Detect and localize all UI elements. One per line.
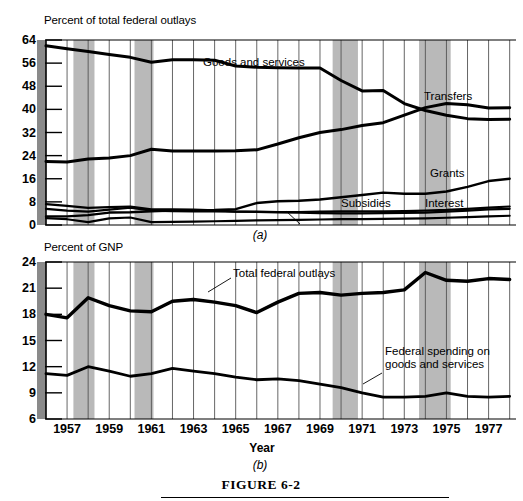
- figure-caption: FIGURE 6-2: [161, 477, 361, 493]
- recession-band-0-0: [73, 40, 94, 225]
- label-transfers: Transfers: [424, 90, 472, 103]
- ytick-label-1-12: 12: [10, 361, 36, 373]
- label-goods-and-services: Goods and services: [203, 56, 305, 69]
- ytick-label-0-48: 48: [10, 80, 36, 92]
- recession-band-0-1: [135, 40, 154, 225]
- recession-band-1-0: [73, 262, 94, 419]
- ytick-label-1-15: 15: [10, 335, 36, 347]
- ytick-label-1-24: 24: [10, 256, 36, 268]
- caption-divider: [161, 497, 449, 498]
- label-grants: Grants: [430, 167, 465, 180]
- label-interest: Interest: [425, 197, 463, 210]
- label-federal-spending-goods: Federal spending on goods and services: [385, 345, 510, 371]
- xtick-label-1969: 1969: [298, 423, 342, 436]
- xtick-label-1967: 1967: [256, 423, 300, 436]
- ytick-label-0-32: 32: [10, 127, 36, 139]
- xtick-label-1957: 1957: [45, 423, 89, 436]
- recession-band-1-2: [333, 262, 358, 419]
- xtick-label-1965: 1965: [214, 423, 258, 436]
- recession-band-1-1: [135, 262, 154, 419]
- ytick-label-1-6: 6: [10, 413, 36, 425]
- xtick-label-1975: 1975: [424, 423, 468, 436]
- xtick-label-1973: 1973: [382, 423, 426, 436]
- ytick-label-0-56: 56: [10, 57, 36, 69]
- ytick-label-1-21: 21: [10, 282, 36, 294]
- label-total-federal-outlays: Total federal outlays: [233, 267, 335, 280]
- panel-b-letter: (b): [240, 458, 280, 472]
- leader-federal-goods: [363, 373, 382, 384]
- label-subsidies: Subsidies: [341, 197, 391, 210]
- ytick-label-0-8: 8: [10, 196, 36, 208]
- x-axis-label: Year: [240, 441, 284, 455]
- ytick-label-0-64: 64: [10, 34, 36, 46]
- ytick-label-1-18: 18: [10, 308, 36, 320]
- ytick-label-1-9: 9: [10, 387, 36, 399]
- ytick-label-0-16: 16: [10, 173, 36, 185]
- ytick-label-0-0: 0: [10, 219, 36, 231]
- panel-a-letter: (a): [240, 228, 280, 242]
- xtick-label-1971: 1971: [340, 423, 384, 436]
- panel-b-axis-title: Percent of GNP: [44, 241, 123, 253]
- axis-shade-1: [37, 262, 46, 419]
- ytick-label-0-40: 40: [10, 103, 36, 115]
- leader-total-outlays: [208, 278, 231, 292]
- xtick-label-1963: 1963: [172, 423, 216, 436]
- axis-shade-0: [37, 40, 46, 225]
- xtick-label-1977: 1977: [467, 423, 511, 436]
- xtick-label-1959: 1959: [87, 423, 131, 436]
- xtick-label-1961: 1961: [129, 423, 173, 436]
- ytick-label-0-24: 24: [10, 150, 36, 162]
- figure-6-2: Percent of total federal outlays (a) Per…: [0, 0, 523, 501]
